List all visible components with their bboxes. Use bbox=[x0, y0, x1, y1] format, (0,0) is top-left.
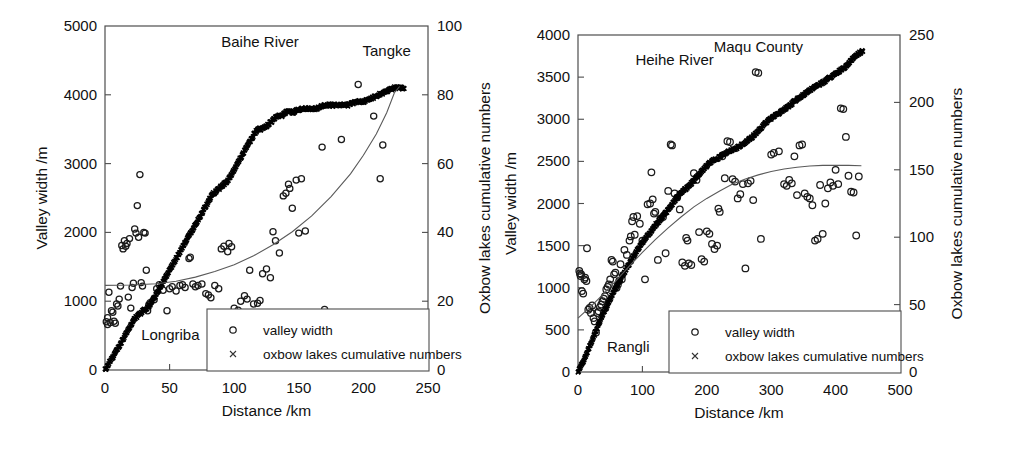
y2-tick-label: 150 bbox=[909, 161, 934, 178]
scatter-point bbox=[287, 185, 293, 191]
x-tick-label: 200 bbox=[694, 381, 719, 398]
y2-tick-label: 250 bbox=[909, 26, 934, 43]
scatter-point bbox=[750, 197, 757, 204]
scatter-point bbox=[791, 153, 798, 160]
scatter-point bbox=[584, 245, 591, 252]
y-tick-label: 0 bbox=[562, 363, 570, 380]
y2-tick-label: 20 bbox=[437, 292, 454, 309]
scatter-point bbox=[655, 257, 662, 264]
scatter-point bbox=[610, 258, 617, 265]
scatter-point bbox=[132, 226, 138, 232]
y-tick-label: 3000 bbox=[64, 155, 97, 172]
y2-axis-title: Oxbow lakes cumulative numbers bbox=[476, 82, 493, 314]
y-tick-label: 1000 bbox=[64, 292, 97, 309]
scatter-point bbox=[626, 237, 633, 244]
y2-tick-label: 0 bbox=[909, 363, 917, 380]
scatter-point bbox=[742, 265, 749, 272]
scatter-point bbox=[822, 200, 829, 207]
y-tick-label: 5000 bbox=[64, 17, 97, 34]
y2-tick-label: 100 bbox=[437, 17, 462, 34]
y-tick-label: 1500 bbox=[537, 237, 570, 254]
annotation-heihe-river: Heihe River bbox=[635, 51, 713, 68]
scatter-point bbox=[677, 206, 684, 213]
scatter-point bbox=[817, 182, 824, 189]
y2-tick-label: 40 bbox=[437, 223, 454, 240]
legend: valley widthoxbow lakes cumulative numbe… bbox=[669, 311, 924, 373]
scatter-point bbox=[267, 275, 273, 281]
legend-label-valley-width: valley width bbox=[263, 323, 333, 338]
annotation-tangke: Tangke bbox=[362, 42, 410, 59]
scatter-point bbox=[722, 175, 729, 182]
scatter-point bbox=[117, 283, 123, 289]
scatter-point bbox=[164, 308, 170, 314]
y-tick-label: 4000 bbox=[64, 86, 97, 103]
scatter-point bbox=[134, 203, 140, 209]
scatter-point bbox=[631, 231, 638, 238]
scatter-point bbox=[270, 229, 276, 235]
x-tick-label: 100 bbox=[222, 379, 247, 396]
y-tick-label: 2000 bbox=[64, 223, 97, 240]
chart-panel-left: 050100150200250Distance /km0100020003000… bbox=[33, 17, 493, 419]
y-tick-label: 1000 bbox=[537, 279, 570, 296]
valley-width-scatter bbox=[576, 69, 862, 336]
scatter-point bbox=[856, 173, 863, 180]
annotation-baihe-river: Baihe River bbox=[221, 33, 299, 50]
annotation-rangli: Rangli bbox=[607, 338, 650, 355]
scatter-point bbox=[125, 294, 131, 300]
y-tick-label: 500 bbox=[545, 321, 570, 338]
scatter-point bbox=[137, 172, 143, 178]
x-axis-title: Distance /km bbox=[222, 402, 312, 419]
scatter-point bbox=[819, 231, 826, 238]
scatter-point bbox=[276, 250, 282, 256]
scatter-point bbox=[665, 188, 672, 195]
scatter-point bbox=[662, 250, 669, 257]
x-tick-label: 300 bbox=[759, 381, 784, 398]
legend-label-cumulative: oxbow lakes cumulative numbers bbox=[725, 349, 924, 364]
x-tick-label: 250 bbox=[415, 379, 440, 396]
scatter-point bbox=[143, 267, 149, 273]
scatter-point bbox=[612, 269, 619, 276]
x-tick-label: 0 bbox=[101, 379, 109, 396]
y-tick-label: 2000 bbox=[537, 195, 570, 212]
annotation-maqu-county: Maqu County bbox=[714, 38, 804, 55]
scatter-point bbox=[355, 81, 361, 87]
scatter-point bbox=[110, 309, 116, 315]
y-tick-label: 0 bbox=[89, 361, 97, 378]
scatter-point bbox=[199, 281, 205, 287]
scatter-point bbox=[116, 296, 122, 302]
y2-tick-label: 200 bbox=[909, 93, 934, 110]
scatter-point bbox=[845, 172, 852, 179]
scatter-point bbox=[338, 136, 344, 142]
scatter-point bbox=[216, 286, 222, 292]
scatter-point bbox=[843, 134, 850, 141]
scatter-point bbox=[629, 218, 636, 225]
legend: valley widthoxbow lakes cumulative numbe… bbox=[207, 309, 462, 371]
x-tick-label: 0 bbox=[574, 381, 582, 398]
y-tick-label: 2500 bbox=[537, 152, 570, 169]
scatter-point bbox=[380, 142, 386, 148]
figure-container: 050100150200250Distance /km0100020003000… bbox=[0, 0, 1018, 450]
x-tick-label: 500 bbox=[887, 381, 912, 398]
scatter-point bbox=[794, 192, 801, 199]
scatter-point bbox=[809, 202, 816, 209]
x-tick-label: 400 bbox=[823, 381, 848, 398]
scatter-point bbox=[296, 230, 302, 236]
y-axis-title: Valley width /m bbox=[33, 146, 50, 249]
x-tick-label: 100 bbox=[630, 381, 655, 398]
scatter-point bbox=[377, 176, 383, 182]
trend-line bbox=[105, 87, 400, 286]
y2-tick-label: 60 bbox=[437, 155, 454, 172]
y2-tick-label: 50 bbox=[909, 296, 926, 313]
scatter-point bbox=[371, 113, 377, 119]
annotation-longriba: Longriba bbox=[141, 326, 200, 343]
scatter-point bbox=[285, 181, 291, 187]
x-tick-label: 50 bbox=[161, 379, 178, 396]
x-tick-label: 150 bbox=[286, 379, 311, 396]
y2-tick-label: 0 bbox=[437, 361, 445, 378]
scatter-point bbox=[115, 303, 121, 309]
scatter-point bbox=[263, 266, 269, 272]
x-tick-label: 200 bbox=[351, 379, 376, 396]
scatter-point bbox=[642, 276, 649, 283]
scatter-point bbox=[106, 289, 112, 295]
scatter-point bbox=[319, 144, 325, 150]
